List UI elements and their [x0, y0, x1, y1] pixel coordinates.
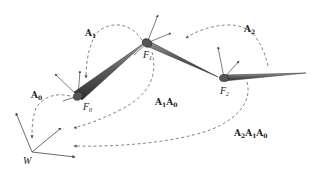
label-a1: A1 [85, 29, 96, 39]
label-a2: A2 [244, 25, 255, 35]
world-frame-axes [16, 113, 75, 157]
label-w: W [23, 156, 31, 166]
frame-f1-axes [134, 15, 171, 55]
frame-f2-axes [218, 47, 239, 78]
bone-1 [141, 37, 218, 77]
label-a1a0: A1A0 [155, 98, 177, 108]
transform-arrow-a2 [186, 25, 268, 66]
label-f0: F0 [83, 102, 92, 113]
label-f1: F1 [143, 50, 152, 61]
label-f2: F2 [220, 86, 229, 97]
transform-arrow-a0 [32, 95, 70, 138]
bone-0 [72, 41, 147, 102]
label-a2a1a0: A2A1A0 [234, 129, 268, 139]
label-a0: A0 [31, 91, 42, 101]
bone-hierarchy-diagram [0, 0, 312, 173]
bone-2 [220, 73, 307, 82]
